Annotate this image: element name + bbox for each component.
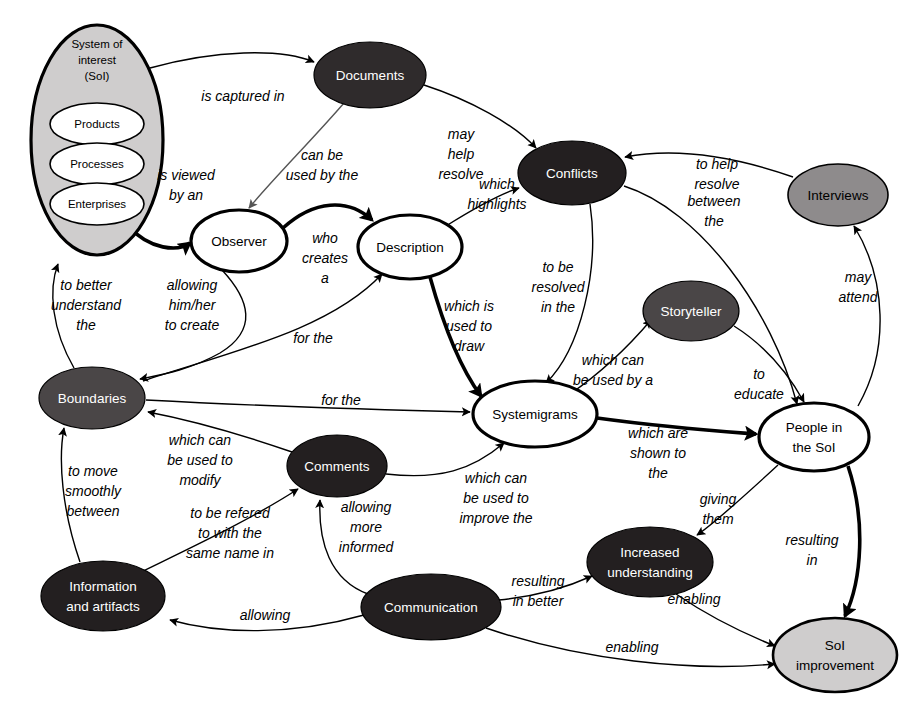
boundaries-ellipse[interactable] [39, 367, 145, 429]
communication-ellipse[interactable] [361, 574, 501, 640]
conflicts-ellipse[interactable] [518, 141, 626, 205]
node-soi-improvement[interactable]: SoI improvement [773, 618, 897, 692]
edge-label-e1-line-0: is captured in [201, 88, 284, 104]
edge-label-e22-line-0: resulting [786, 532, 839, 548]
information-and-artifacts-ellipse[interactable] [41, 561, 165, 631]
node-processes[interactable]: Processes [50, 143, 144, 185]
edge-label-e22-line-1: in [807, 552, 818, 568]
edge-label-e11-line-2: to create [165, 317, 220, 333]
systemigram-diagram: System of interest (SoI) Products Proces… [0, 0, 910, 710]
increased-understanding-ellipse[interactable] [587, 527, 713, 597]
edge-label-e27: resulting in better [512, 573, 565, 609]
edge-label-e14-line-1: used to [446, 318, 492, 334]
node-conflicts[interactable]: Conflicts [518, 141, 626, 205]
edge-path-e14 [430, 277, 481, 396]
edge-label-e17-line-0: for the [321, 392, 361, 408]
processes-ellipse[interactable] [50, 143, 144, 185]
edge-label-e16: to educate [734, 366, 784, 402]
edge-label-e3-line-1: used by the [286, 167, 359, 183]
comments-ellipse[interactable] [287, 435, 387, 497]
node-storyteller[interactable]: Storyteller [643, 281, 739, 341]
edge-label-e9: to help resolve [694, 156, 739, 192]
edge-label-e23-line-0: to move [68, 463, 118, 479]
edge-label-e7-line-1: resolved [532, 279, 586, 295]
edge-label-e4: may help resolve [438, 126, 483, 182]
edge-label-e5-line-2: a [321, 270, 329, 286]
edge-label-e10-line-0: may [845, 269, 872, 285]
edge-label-e12: to better understand the [51, 277, 122, 333]
edge-label-e2-line-0: is viewed [157, 167, 216, 183]
edge-label-e22: resulting in [786, 532, 839, 568]
edge-label-e2-line-1: by an [169, 187, 203, 203]
edge-label-e19-line-0: which can [169, 432, 231, 448]
node-description[interactable]: Description [358, 215, 462, 279]
edge-label-e29-line-0: enabling [606, 639, 659, 655]
soi-improvement-ellipse[interactable] [773, 618, 897, 692]
node-enterprises[interactable]: Enterprises [50, 183, 144, 225]
edge-label-e11: allowing him/her to create [165, 277, 220, 333]
edge-path-e5 [283, 205, 372, 228]
edge-label-e25-line-0: allowing [341, 499, 392, 515]
edge-label-e25-line-1: more [350, 519, 382, 535]
edge-label-e24: to be refered to with the same name in [186, 505, 274, 561]
edge-label-e5-line-1: creates [302, 250, 348, 266]
node-systemigrams[interactable]: Systemigrams [473, 381, 597, 447]
node-system-of-interest[interactable]: System of interest (SoI) Products Proces… [31, 25, 163, 255]
edge-label-e8: between the [688, 193, 741, 229]
edge-label-e18: which are shown to the [628, 425, 688, 481]
interviews-ellipse[interactable] [788, 164, 888, 226]
edge-label-e9-line-0: to help [696, 156, 738, 172]
edge-label-e14-line-0: which is [444, 298, 494, 314]
products-ellipse[interactable] [50, 103, 144, 145]
node-boundaries[interactable]: Boundaries [39, 367, 145, 429]
node-documents[interactable]: Documents [314, 42, 426, 108]
edge-label-e28-line-0: enabling [668, 591, 721, 607]
edge-label-e4-line-2: resolve [438, 166, 483, 182]
edge-label-e12-line-0: to better [60, 277, 113, 293]
edge-label-e23-line-2: between [67, 503, 120, 519]
edge-label-e20: which can be used to improve the [459, 470, 532, 526]
edge-label-e19-line-1: be used to [167, 452, 233, 468]
node-comments[interactable]: Comments [287, 435, 387, 497]
edge-label-e19-line-2: modify [179, 472, 221, 488]
edge-label-e20-line-0: which can [465, 470, 527, 486]
edge-label-e26-line-0: allowing [240, 607, 291, 623]
edge-label-e6-line-1: highlights [467, 196, 526, 212]
node-information-and-artifacts[interactable]: Information and artifacts [41, 561, 165, 631]
edge-path-e4 [424, 85, 536, 148]
edge-label-e23: to move smoothly between [65, 463, 122, 519]
node-increased-understanding[interactable]: Increased understanding [587, 527, 713, 597]
edge-label-e25: allowing more informed [339, 499, 395, 555]
edge-path-e22 [845, 466, 860, 616]
edge-label-e3: can be used by the [286, 147, 359, 183]
edge-label-e20-line-2: improve the [459, 510, 532, 526]
edge-label-e13-line-0: for the [293, 330, 333, 346]
storyteller-ellipse[interactable] [643, 281, 739, 341]
node-people-in-the-soi[interactable]: People in the SoI [759, 403, 869, 471]
edge-label-e29: enabling [606, 639, 659, 655]
edge-label-e8-line-1: the [704, 213, 724, 229]
edge-label-e4-line-0: may [448, 126, 475, 142]
node-interviews[interactable]: Interviews [788, 164, 888, 226]
enterprises-ellipse[interactable] [50, 183, 144, 225]
documents-ellipse[interactable] [314, 42, 426, 108]
edge-label-e21-line-0: giving [700, 491, 737, 507]
edge-path-e17 [146, 400, 470, 412]
systemigrams-ellipse[interactable] [473, 381, 597, 447]
description-ellipse[interactable] [358, 215, 462, 279]
edge-label-e15-line-0: which can [582, 352, 644, 368]
observer-ellipse[interactable] [191, 210, 287, 272]
edge-label-e18-line-2: the [648, 465, 668, 481]
edge-label-e8-line-0: between [688, 193, 741, 209]
edge-label-e10: may attend [839, 269, 879, 305]
node-communication[interactable]: Communication [361, 574, 501, 640]
edge-label-e3-line-0: can be [301, 147, 343, 163]
node-products[interactable]: Products [50, 103, 144, 145]
edge-label-e4-line-1: help [448, 146, 475, 162]
people-in-the-soi-ellipse[interactable] [759, 403, 869, 471]
edge-label-e12-line-2: the [76, 317, 96, 333]
node-observer[interactable]: Observer [191, 210, 287, 272]
edge-label-e24-line-0: to be refered [190, 505, 271, 521]
edge-label-e11-line-0: allowing [167, 277, 218, 293]
edge-label-e28: enabling [668, 591, 721, 607]
